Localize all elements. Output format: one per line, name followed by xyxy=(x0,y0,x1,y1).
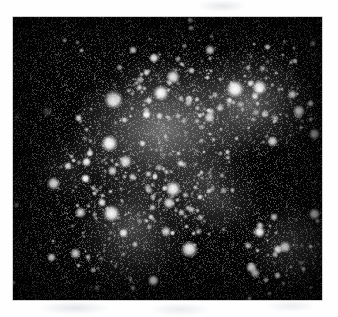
star-cluster-photograph xyxy=(13,17,322,300)
scanner-smudge-bottom-right-icon xyxy=(268,300,314,312)
page-background xyxy=(0,0,338,317)
scanner-smudge-bottom-center-icon xyxy=(150,303,210,316)
scanner-smudge-top-icon xyxy=(198,0,246,12)
scanner-smudge-bottom-left-icon xyxy=(40,301,110,315)
film-grain-layer xyxy=(13,17,322,300)
